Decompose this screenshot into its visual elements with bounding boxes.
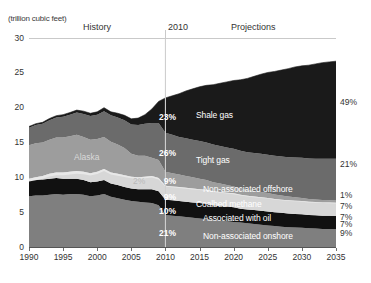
chart-figure: (trillion cubic feet) History 2010 Proje… (0, 0, 371, 283)
x-tickmark-2010 (165, 248, 166, 251)
share-2035-non-associated-offshore: 1% (340, 190, 352, 200)
y-tick-5: 5 (4, 207, 24, 217)
series-label-shale-gas: Shale gas (196, 110, 233, 120)
x-tick-2005: 2005 (114, 252, 148, 262)
share-2010-shale-gas: 23% (152, 112, 176, 122)
share-2010-coalbed-methane: 9% (152, 192, 176, 202)
series-label-associated-with-oil: Associated with oil (203, 213, 271, 223)
divider-line-extension (165, 30, 166, 38)
alaska-share-annotation: 2% (133, 176, 145, 186)
x-tick-2025: 2025 (251, 252, 285, 262)
x-tick-2015: 2015 (183, 252, 217, 262)
share-2010-non-associated-offshore: 9% (152, 176, 176, 186)
stacked-area-series (29, 38, 336, 247)
x-tickmark-1995 (63, 248, 64, 251)
y-tick-20: 20 (4, 102, 24, 112)
x-tick-1990: 1990 (12, 252, 46, 262)
alaska-annotation: Alaska (74, 152, 100, 162)
x-tick-2035: 2035 (319, 252, 353, 262)
x-tickmark-2020 (234, 248, 235, 251)
x-tickmark-2015 (200, 248, 201, 251)
x-tick-2030: 2030 (285, 252, 319, 262)
x-tick-2010: 2010 (148, 252, 182, 262)
x-tickmark-2025 (268, 248, 269, 251)
share-2035-tight-gas: 21% (340, 159, 357, 169)
series-label-tight-gas: Tight gas (196, 155, 230, 165)
plot-area (29, 38, 336, 247)
share-2035-non-associated-onshore: 9% (340, 228, 352, 238)
top-rule (29, 38, 336, 39)
divider-year-label: 2010 (168, 22, 188, 32)
y-tick-15: 15 (4, 137, 24, 147)
series-label-non-associated-onshore: Non-associated onshore (203, 231, 293, 241)
y-tick-30: 30 (4, 33, 24, 43)
x-tick-1995: 1995 (46, 252, 80, 262)
share-2035-coalbed-methane: 7% (340, 201, 352, 211)
x-tick-2020: 2020 (217, 252, 251, 262)
x-axis-line (29, 247, 336, 248)
y-tick-25: 25 (4, 67, 24, 77)
x-tickmark-2005 (131, 248, 132, 251)
units-label: (trillion cubic feet) (8, 14, 67, 23)
history-period-label: History (83, 22, 111, 32)
x-tick-2000: 2000 (80, 252, 114, 262)
x-tickmark-2035 (336, 248, 337, 251)
share-2010-tight-gas: 26% (152, 148, 176, 158)
series-label-coalbed-methane: Coalbed methane (196, 199, 262, 209)
y-tick-0: 0 (4, 242, 24, 252)
share-2010-non-associated-onshore: 21% (152, 228, 176, 238)
y-tick-10: 10 (4, 172, 24, 182)
share-2035-coalbed-methane-duplicate: 7% (340, 219, 352, 229)
x-tickmark-2000 (97, 248, 98, 251)
series-label-non-associated-offshore: Non-associated offshore (203, 184, 293, 194)
projections-period-label: Projections (231, 22, 276, 32)
x-tickmark-2030 (302, 248, 303, 251)
share-2035-shale-gas: 49% (340, 97, 357, 107)
share-2010-associated-with-oil: 10% (152, 206, 176, 216)
x-tickmark-1990 (29, 248, 30, 251)
